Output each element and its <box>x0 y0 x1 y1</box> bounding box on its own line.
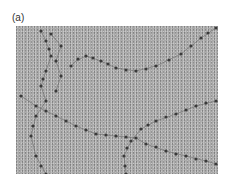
electron-micrograph <box>16 26 218 174</box>
panel-label: (a) <box>12 12 24 23</box>
chromatin-strands <box>16 26 218 174</box>
